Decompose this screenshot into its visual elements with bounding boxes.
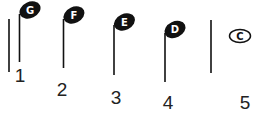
note-number: 4 bbox=[163, 92, 174, 113]
music-diagram: G 1 F 2 E 3 D 4 C 5 bbox=[0, 0, 270, 117]
note-number: 1 bbox=[15, 65, 26, 86]
note-letter: D bbox=[171, 24, 179, 35]
note-letter: E bbox=[121, 17, 128, 28]
note-5: C 5 bbox=[230, 30, 251, 114]
note-3: E 3 bbox=[111, 10, 138, 108]
note-letter: F bbox=[71, 10, 78, 21]
note-number: 3 bbox=[111, 87, 122, 108]
note-letter: C bbox=[236, 31, 243, 42]
note-1: G 1 bbox=[15, 0, 44, 86]
note-4: D 4 bbox=[162, 18, 189, 113]
note-2: F 2 bbox=[57, 3, 88, 100]
note-number: 5 bbox=[240, 92, 251, 113]
note-number: 2 bbox=[57, 79, 68, 100]
note-letter: G bbox=[26, 5, 34, 16]
